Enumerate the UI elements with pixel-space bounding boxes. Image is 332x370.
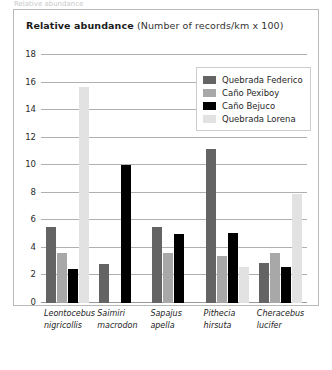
bar-group xyxy=(94,55,147,303)
y-axis-tick-0: 0 xyxy=(31,297,36,307)
y-axis-tick-18: 18 xyxy=(25,49,36,59)
x-axis-label: Cheracebuslucifer xyxy=(257,308,304,331)
legend-label: Caño Pexiboy xyxy=(222,88,279,98)
bar-group xyxy=(41,55,94,303)
bar xyxy=(206,149,216,303)
bar xyxy=(239,267,249,303)
legend-swatch xyxy=(203,102,216,110)
bar xyxy=(217,256,227,303)
legend-swatch xyxy=(203,89,216,97)
x-axis-label-line-2: macrodon xyxy=(97,320,137,332)
x-axis-label: Leontocebusnigricollis xyxy=(44,308,95,331)
bar xyxy=(79,87,89,303)
legend-label: Quebrada Lorena xyxy=(222,114,296,124)
x-axis-label-line-1: Sapajus xyxy=(150,308,181,320)
bar xyxy=(174,234,184,303)
y-axis-tick-2: 2 xyxy=(31,269,36,279)
y-axis-tick-12: 12 xyxy=(25,132,36,142)
legend-item: Quebrada Federico xyxy=(203,73,303,86)
clipped-text-above-figure: Relative abundance xyxy=(14,0,154,7)
legend-swatch xyxy=(203,115,216,123)
bar xyxy=(292,194,302,303)
x-axis-label: Saimirimacrodon xyxy=(97,308,137,331)
x-axis-label-line-2: hirsuta xyxy=(204,320,236,332)
y-axis-tick-4: 4 xyxy=(31,242,36,252)
bar xyxy=(99,264,109,303)
y-axis-tick-16: 16 xyxy=(25,77,36,87)
x-axis-label: Sapajusapella xyxy=(150,308,181,331)
legend-item: Quebrada Lorena xyxy=(203,112,303,125)
bar xyxy=(121,165,131,303)
chart-figure-box: Relative abundance (Number of records/km… xyxy=(13,9,319,306)
chart-title-bold: Relative abundance xyxy=(26,20,134,31)
x-axis-label: Pitheciahirsuta xyxy=(204,308,236,331)
x-axis-label-line-2: lucifer xyxy=(257,320,304,332)
bar xyxy=(68,269,78,303)
y-axis-tick-6: 6 xyxy=(31,214,36,224)
bar xyxy=(281,267,291,303)
bar xyxy=(152,227,162,303)
legend-swatch xyxy=(203,76,216,84)
x-axis-labels: LeontocebusnigricollisSaimirimacrodonSap… xyxy=(41,308,307,348)
x-axis-label-line-1: Saimiri xyxy=(97,308,137,320)
bar xyxy=(57,253,67,303)
bar xyxy=(163,253,173,303)
legend-label: Quebrada Federico xyxy=(222,75,303,85)
chart-title-regular: (Number of records/km x 100) xyxy=(137,20,284,31)
bar xyxy=(259,263,269,303)
x-axis-label-line-1: Pithecia xyxy=(204,308,236,320)
x-axis-label-line-2: apella xyxy=(150,320,181,332)
legend-label: Caño Bejuco xyxy=(222,101,275,111)
x-axis-label-line-2: nigricollis xyxy=(44,320,95,332)
x-axis-label-line-1: Leontocebus xyxy=(44,308,95,320)
y-axis-tick-14: 14 xyxy=(25,104,36,114)
bar xyxy=(46,227,56,303)
bar xyxy=(270,253,280,303)
bar xyxy=(228,233,238,303)
x-axis-label-line-1: Cheracebus xyxy=(257,308,304,320)
y-axis-tick-10: 10 xyxy=(25,159,36,169)
legend-item: Caño Bejuco xyxy=(203,99,303,112)
chart-title: Relative abundance (Number of records/km… xyxy=(26,20,284,31)
legend-item: Caño Pexiboy xyxy=(203,86,303,99)
bar-group xyxy=(147,55,200,303)
y-axis-tick-8: 8 xyxy=(31,187,36,197)
chart-legend: Quebrada FedericoCaño PexiboyCaño Bejuco… xyxy=(196,67,311,131)
